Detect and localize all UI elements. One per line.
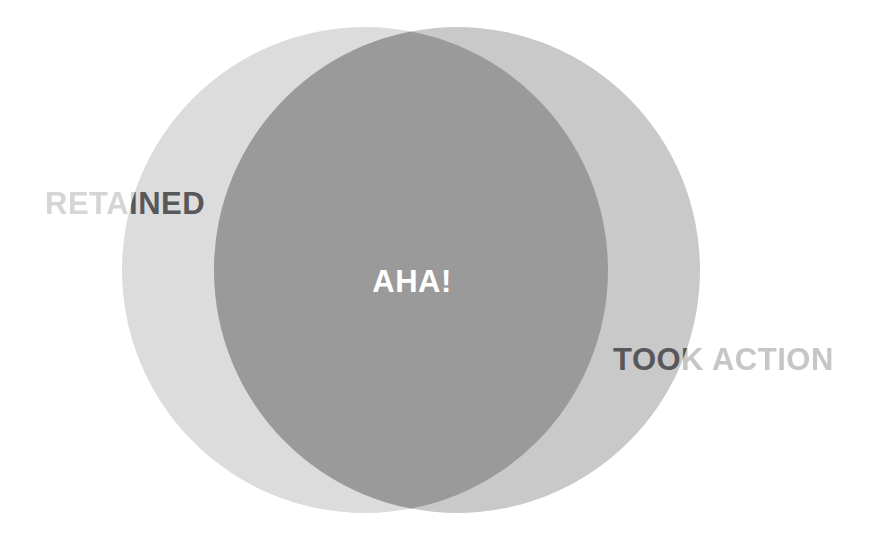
venn-canvas: RETAINED RETAINED TOOK ACTION TOOK ACTIO…: [0, 0, 895, 555]
intersection-label-aha: AHA!: [372, 264, 452, 299]
venn-diagram: RETAINED RETAINED TOOK ACTION TOOK ACTIO…: [0, 0, 895, 555]
